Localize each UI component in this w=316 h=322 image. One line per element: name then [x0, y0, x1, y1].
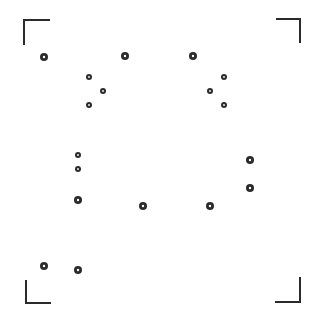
dot: [100, 88, 106, 94]
dot: [75, 166, 81, 172]
corner-bracket-bottom-left: [26, 280, 51, 303]
dot: [86, 102, 92, 108]
dot: [40, 53, 48, 61]
corner-bracket-top-right: [276, 19, 300, 43]
corner-bracket-top-left: [24, 20, 50, 45]
dot: [207, 88, 213, 94]
dot: [139, 202, 147, 210]
corner-bracket-bottom-right: [275, 277, 300, 302]
dot: [246, 156, 254, 164]
dot-pattern: [40, 52, 254, 274]
corner-brackets: [24, 19, 300, 303]
dot: [75, 152, 81, 158]
dot: [86, 74, 92, 80]
dot: [189, 52, 197, 60]
dot: [40, 262, 48, 270]
dot: [246, 184, 254, 192]
dot: [74, 266, 82, 274]
dot: [74, 196, 82, 204]
diagram-canvas: [0, 0, 316, 322]
dot: [221, 102, 227, 108]
dot: [121, 52, 129, 60]
dot: [221, 74, 227, 80]
dot: [206, 202, 214, 210]
